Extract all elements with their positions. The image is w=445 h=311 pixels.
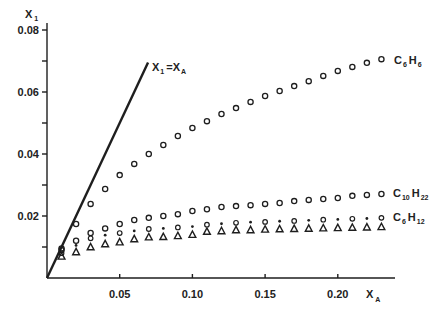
label-c6h6: C6H6 — [394, 54, 422, 68]
marker-triangle — [233, 226, 240, 232]
marker-triangle — [320, 224, 327, 230]
marker-asterisk — [75, 244, 78, 247]
y-tick-label: 0.06 — [18, 86, 39, 98]
x-tick-label: 0.15 — [254, 288, 275, 300]
marker-circle — [263, 93, 268, 98]
marker-circle — [364, 192, 369, 197]
marker-triangle — [349, 224, 356, 230]
marker-asterisk — [278, 220, 281, 223]
marker-circle — [233, 106, 238, 111]
marker-circle — [277, 200, 282, 205]
marker-circle — [306, 79, 311, 84]
marker-asterisk — [336, 218, 339, 221]
marker-triangle — [131, 235, 138, 241]
marker-circle — [190, 125, 195, 130]
label-c6h12: C6H12 — [393, 211, 425, 225]
marker-circle — [379, 191, 384, 196]
marker-circle — [146, 151, 151, 156]
marker-triangle — [305, 225, 312, 231]
marker-circle — [219, 111, 224, 116]
marker-circle — [321, 196, 326, 201]
marker-asterisk — [220, 222, 223, 225]
marker-asterisk — [307, 219, 310, 222]
marker-circle — [292, 84, 297, 89]
marker-circle — [292, 199, 297, 204]
marker-circle-small — [176, 225, 181, 230]
marker-circle — [204, 207, 209, 212]
marker-triangle — [116, 238, 123, 244]
marker-circle — [175, 133, 180, 138]
marker-asterisk — [104, 234, 107, 237]
series-c6h12-upper-markers- — [59, 216, 383, 256]
marker-triangle — [378, 223, 385, 229]
marker-circle-small — [321, 217, 326, 222]
y-axis-title: X1 — [25, 8, 38, 22]
reference-line-label: X1=XA — [152, 61, 186, 75]
marker-triangle — [204, 228, 211, 234]
series-c6h6 — [59, 57, 384, 252]
marker-triangle — [73, 248, 80, 254]
marker-circle — [132, 217, 137, 222]
marker-circle-small — [263, 220, 268, 225]
marker-circle-small — [292, 219, 297, 224]
marker-circle — [117, 172, 122, 177]
x-axis-title: XA — [366, 288, 380, 303]
marker-triangle — [262, 226, 269, 232]
marker-triangle — [174, 232, 181, 238]
marker-circle — [204, 119, 209, 124]
marker-triangle — [218, 227, 225, 233]
marker-triangle — [87, 243, 94, 249]
chart-canvas: 0.020.040.060.080.050.100.150.20X1XA X1=… — [0, 0, 445, 311]
marker-circle — [233, 203, 238, 208]
marker-circle — [335, 195, 340, 200]
marker-triangle — [247, 226, 254, 232]
marker-circle — [175, 212, 180, 217]
marker-circle — [219, 204, 224, 209]
x-tick-label: 0.05 — [109, 288, 130, 300]
marker-triangle — [334, 224, 341, 230]
marker-circle — [190, 208, 195, 213]
marker-circle — [103, 186, 108, 191]
marker-circle — [335, 68, 340, 73]
marker-triangle — [276, 225, 283, 231]
marker-circle — [306, 197, 311, 202]
marker-circle — [88, 230, 93, 235]
marker-circle — [350, 193, 355, 198]
marker-circle-small — [146, 227, 151, 232]
marker-circle — [364, 60, 369, 65]
marker-circle — [132, 161, 137, 166]
marker-circle-small — [350, 216, 355, 221]
data-points — [58, 57, 385, 260]
marker-circle — [146, 215, 151, 220]
marker-asterisk — [133, 229, 136, 232]
marker-circle — [263, 201, 268, 206]
marker-circle-small — [117, 231, 122, 236]
marker-triangle — [102, 240, 109, 246]
marker-asterisk — [191, 225, 194, 228]
marker-circle-small — [88, 236, 93, 241]
marker-circle-small — [234, 221, 239, 226]
series-labels: C6H6C10H22C6H12 — [393, 54, 429, 225]
marker-triangle — [363, 224, 370, 230]
marker-circle-small — [379, 216, 384, 221]
y-tick-label: 0.04 — [18, 148, 40, 160]
series-c10h22 — [59, 191, 384, 252]
y-tick-label: 0.02 — [18, 210, 39, 222]
marker-asterisk — [249, 221, 252, 224]
marker-asterisk — [162, 227, 165, 230]
marker-triangle — [160, 233, 167, 239]
marker-circle — [350, 64, 355, 69]
marker-triangle — [291, 225, 298, 231]
marker-triangle — [145, 233, 152, 239]
marker-circle — [117, 221, 122, 226]
marker-circle-small — [205, 222, 210, 227]
marker-circle — [379, 57, 384, 62]
axes: 0.020.040.060.080.050.100.150.20X1XA — [18, 8, 395, 303]
marker-circle — [103, 226, 108, 231]
marker-circle — [73, 238, 78, 243]
marker-triangle — [189, 231, 196, 237]
x-tick-label: 0.10 — [182, 288, 203, 300]
y-tick-label: 0.08 — [18, 24, 39, 36]
marker-circle — [73, 221, 78, 226]
marker-circle — [277, 88, 282, 93]
